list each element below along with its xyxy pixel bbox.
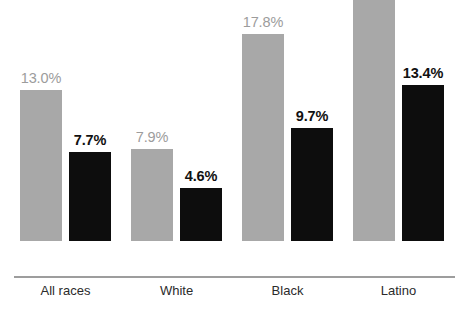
bar-group-white: 7.9% 4.6% (131, 0, 222, 241)
bar-group-latino: 21.7% 13.4% (353, 0, 444, 241)
bar-pair: 13.0% 7.7% (20, 0, 111, 241)
bar-pair: 21.7% 13.4% (353, 0, 444, 241)
bar-pair: 7.9% 4.6% (131, 0, 222, 241)
bar-black-white[interactable]: 4.6% (180, 188, 222, 241)
bar-value-label: 13.4% (403, 65, 444, 81)
bar-black-latino[interactable]: 13.4% (402, 85, 444, 241)
category-label-latino: Latino (353, 283, 444, 298)
bar-value-label: 7.7% (74, 132, 107, 148)
category-label-white: White (131, 283, 222, 298)
bar-value-label: 13.0% (21, 70, 62, 86)
bar-gray-latino[interactable]: 21.7% (353, 0, 395, 241)
bar-value-label: 4.6% (185, 168, 218, 184)
bar-value-label: 17.8% (243, 14, 284, 30)
bar-group-black: 17.8% 9.7% (242, 0, 333, 241)
bar-gray-all-races[interactable]: 13.0% (20, 90, 62, 241)
grouped-bar-chart: 13.0% 7.7% 7.9% 4.6% 17.8% (0, 0, 463, 312)
bar-group-all-races: 13.0% 7.7% (20, 0, 111, 241)
bar-gray-black[interactable]: 17.8% (242, 34, 284, 241)
category-label-black: Black (242, 283, 333, 298)
bar-gray-white[interactable]: 7.9% (131, 149, 173, 241)
category-label-all-races: All races (20, 283, 111, 298)
bar-pair: 17.8% 9.7% (242, 0, 333, 241)
x-axis-baseline (14, 276, 455, 278)
bar-value-label: 7.9% (136, 129, 169, 145)
bar-black-black[interactable]: 9.7% (291, 128, 333, 241)
plot-area: 13.0% 7.7% 7.9% 4.6% 17.8% (0, 0, 463, 277)
bar-value-label: 9.7% (296, 108, 329, 124)
bar-black-all-races[interactable]: 7.7% (69, 152, 111, 241)
